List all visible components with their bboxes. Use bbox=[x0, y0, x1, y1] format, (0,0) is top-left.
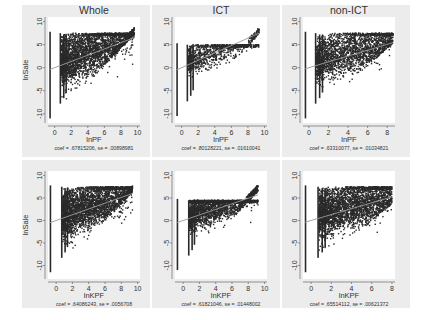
scatter-point bbox=[332, 70, 333, 71]
scatter-point bbox=[131, 191, 132, 192]
scatter-point bbox=[353, 64, 354, 65]
scatter-point bbox=[389, 45, 390, 46]
scatter-stripe bbox=[176, 43, 178, 116]
scatter-point bbox=[361, 210, 362, 211]
scatter-point bbox=[126, 35, 127, 36]
scatter-point bbox=[337, 197, 338, 198]
scatter-point bbox=[389, 188, 390, 189]
scatter-point bbox=[101, 221, 102, 222]
scatter-stripe bbox=[305, 32, 307, 119]
scatter-point bbox=[325, 225, 326, 226]
scatter-point bbox=[348, 189, 349, 190]
scatter-point bbox=[317, 59, 318, 60]
scatter-point bbox=[351, 53, 352, 54]
scatter-point bbox=[112, 202, 113, 203]
scatter-point bbox=[196, 220, 197, 221]
scatter-point bbox=[115, 53, 116, 54]
scatter-point bbox=[339, 197, 340, 198]
scatter-point bbox=[389, 55, 390, 56]
scatter-point bbox=[331, 76, 332, 77]
scatter-point bbox=[387, 38, 388, 39]
scatter-point bbox=[359, 60, 360, 61]
scatter-point bbox=[94, 55, 95, 56]
scatter-point bbox=[229, 215, 230, 216]
scatter-point bbox=[366, 40, 367, 41]
scatter-point bbox=[352, 204, 353, 205]
scatter-point bbox=[359, 211, 360, 212]
scatter-point bbox=[351, 222, 352, 223]
scatter-point bbox=[357, 188, 358, 189]
x-tick-label: 2 bbox=[326, 129, 330, 136]
scatter-point bbox=[370, 210, 371, 211]
scatter-point bbox=[63, 188, 64, 189]
scatter-point bbox=[126, 37, 127, 38]
scatter-point bbox=[368, 42, 369, 43]
scatter-point bbox=[322, 65, 323, 66]
scatter-point bbox=[113, 209, 114, 210]
scatter-point bbox=[353, 34, 354, 35]
scatter-point bbox=[72, 56, 73, 57]
scatter-point bbox=[205, 221, 206, 222]
scatter-point bbox=[355, 196, 356, 197]
scatter-point bbox=[110, 53, 111, 54]
scatter-point bbox=[189, 46, 190, 47]
scatter-point bbox=[338, 48, 339, 49]
scatter-point bbox=[89, 65, 90, 66]
scatter-point bbox=[77, 52, 78, 53]
scatter-point bbox=[80, 197, 81, 198]
scatter-point bbox=[339, 199, 340, 200]
scatter-point bbox=[208, 230, 209, 231]
scatter-point bbox=[221, 210, 222, 211]
scatter-point bbox=[373, 215, 374, 216]
scatter-point bbox=[335, 206, 336, 207]
scatter-point bbox=[195, 200, 196, 201]
x-tick-label: 8 bbox=[119, 285, 123, 292]
y-tick-label: 5 bbox=[163, 43, 170, 47]
scatter-point bbox=[340, 69, 341, 70]
scatter-point bbox=[131, 190, 132, 191]
scatter-point bbox=[357, 214, 358, 215]
scatter-point bbox=[119, 195, 120, 196]
scatter-point bbox=[82, 40, 83, 41]
scatter-point bbox=[348, 34, 349, 35]
scatter-figure: 1050-5-100246810WholelnPFlnSalecoef = .6… bbox=[0, 0, 428, 320]
scatter-point bbox=[70, 227, 71, 228]
scatter-point bbox=[100, 199, 101, 200]
scatter-point bbox=[355, 43, 356, 44]
scatter-point bbox=[88, 223, 89, 224]
scatter-point bbox=[323, 235, 324, 236]
scatter-point bbox=[85, 198, 86, 199]
scatter-point bbox=[345, 48, 346, 49]
scatter-point bbox=[345, 186, 346, 187]
scatter-point bbox=[210, 212, 211, 213]
scatter-point bbox=[245, 44, 246, 45]
scatter-point bbox=[359, 45, 360, 46]
scatter-point bbox=[377, 51, 378, 52]
scatter-point bbox=[342, 238, 343, 239]
scatter-point bbox=[204, 62, 205, 63]
scatter-point bbox=[77, 234, 78, 235]
scatter-point bbox=[351, 225, 352, 226]
scatter-point bbox=[375, 43, 376, 44]
scatter-point bbox=[238, 46, 239, 47]
scatter-point bbox=[319, 190, 320, 191]
scatter-point bbox=[238, 44, 239, 45]
scatter-point bbox=[72, 68, 73, 69]
scatter-point bbox=[89, 198, 90, 199]
scatter-point bbox=[86, 219, 87, 220]
scatter-point bbox=[74, 62, 75, 63]
scatter-point bbox=[65, 210, 66, 211]
scatter-point bbox=[64, 213, 65, 214]
scatter-point bbox=[326, 209, 327, 210]
scatter-point bbox=[79, 81, 80, 82]
scatter-point bbox=[63, 205, 64, 206]
scatter-point bbox=[339, 67, 340, 68]
scatter-point bbox=[105, 189, 106, 190]
scatter-point bbox=[216, 64, 217, 65]
scatter-point bbox=[331, 235, 332, 236]
scatter-point bbox=[80, 71, 81, 72]
y-tick-label: -5 bbox=[291, 240, 298, 246]
scatter-point bbox=[62, 85, 63, 86]
scatter-point bbox=[341, 53, 342, 54]
scatter-point bbox=[343, 55, 344, 56]
